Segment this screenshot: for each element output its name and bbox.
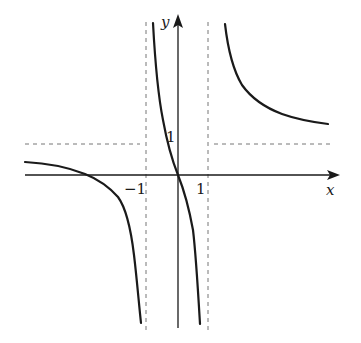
function-graph: y x −1 1 1 (0, 0, 361, 343)
x-tick-neg1: −1 (124, 182, 146, 197)
y-axis-label: y (161, 15, 169, 30)
x-tick-pos1: 1 (196, 182, 206, 197)
y-tick-1: 1 (166, 130, 176, 145)
plot-canvas (0, 0, 361, 343)
curve-right-branch (225, 24, 328, 124)
x-axis-label: x (326, 183, 334, 198)
curve-middle-branch (153, 23, 200, 324)
function-curves (25, 23, 328, 324)
